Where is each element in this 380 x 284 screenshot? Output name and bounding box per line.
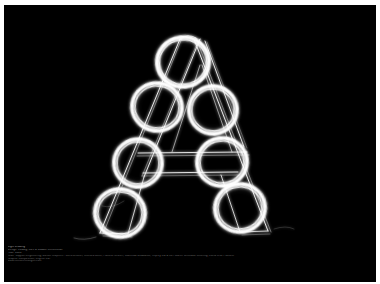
letter-a-outline [74, 36, 294, 240]
poster-frame: Light Drawing Design: Ludwig, Lars & Mad… [0, 0, 380, 284]
poster-caption: Light Drawing Design: Ludwig, Lars & Mad… [8, 246, 238, 263]
light-rings [81, 26, 279, 250]
caption-line-website: www.lichtzeichnungen.com [8, 260, 238, 263]
light-drawing-artwork [4, 5, 376, 282]
artwork-glow-halo [97, 39, 263, 235]
poster-canvas: Light Drawing Design: Ludwig, Lars & Mad… [4, 5, 376, 282]
